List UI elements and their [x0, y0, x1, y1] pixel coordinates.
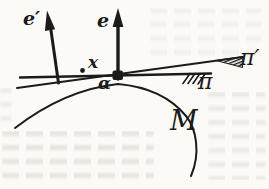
label-point-x: x — [88, 54, 98, 71]
label-vector-e: e — [97, 11, 109, 30]
diagram-drawing — [0, 0, 269, 189]
point-x-marker — [80, 68, 85, 73]
label-point-alpha: α — [98, 75, 111, 92]
point-alpha-marker — [113, 71, 124, 81]
vector-e-prime-head — [45, 11, 55, 32]
vector-e-prime-shaft — [51, 27, 59, 83]
scanned-figure-page: e′ e x α π π′ M — [0, 0, 269, 189]
label-plane-pi: π — [198, 71, 212, 93]
label-plane-pi-prime: π′ — [240, 47, 259, 69]
pi-prime-hatched-region — [216, 57, 243, 68]
label-vector-e-prime: e′ — [23, 9, 40, 28]
vector-e-prime-arrow — [45, 11, 59, 84]
label-manifold-m: M — [170, 107, 198, 134]
vector-e-arrow — [113, 8, 124, 79]
vector-e-head — [113, 8, 124, 27]
